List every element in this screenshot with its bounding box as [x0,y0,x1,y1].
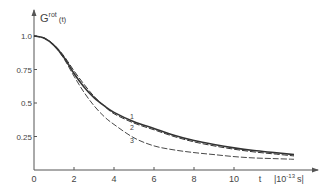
y-axis-label: Grot(t) [40,11,67,24]
series-line-1 [34,36,294,155]
chart: 02468100.250.50.751.0Grot(t)t|10-13s| 12… [0,0,332,195]
x-tick-label: 6 [151,174,156,184]
x-axis-label: t [259,174,262,184]
labels-group: 123 [130,113,134,144]
x-tick-label: 4 [111,174,116,184]
axes: 02468100.250.50.751.0Grot(t)t|10-13s| [16,9,319,184]
y-tick-label: 0.75 [16,66,32,75]
y-axis-arrow-icon [32,9,37,16]
curve-label-2: 2 [130,124,134,131]
series-line-2 [34,36,294,156]
series-line-3 [34,36,294,159]
x-axis-unit: |10-13s| [274,173,304,184]
series-group [34,36,294,159]
x-tick-label: 2 [71,174,76,184]
x-tick-label: 8 [191,174,196,184]
x-tick-label: 0 [31,174,36,184]
y-tick-label: 0.5 [21,99,33,108]
y-tick-label: 1.0 [21,32,33,41]
x-tick-label: 10 [229,174,239,184]
curve-label-3: 3 [130,137,134,144]
curve-label-1: 1 [130,113,134,120]
y-tick-label: 0.25 [16,133,32,142]
x-axis-arrow-icon [312,168,319,173]
